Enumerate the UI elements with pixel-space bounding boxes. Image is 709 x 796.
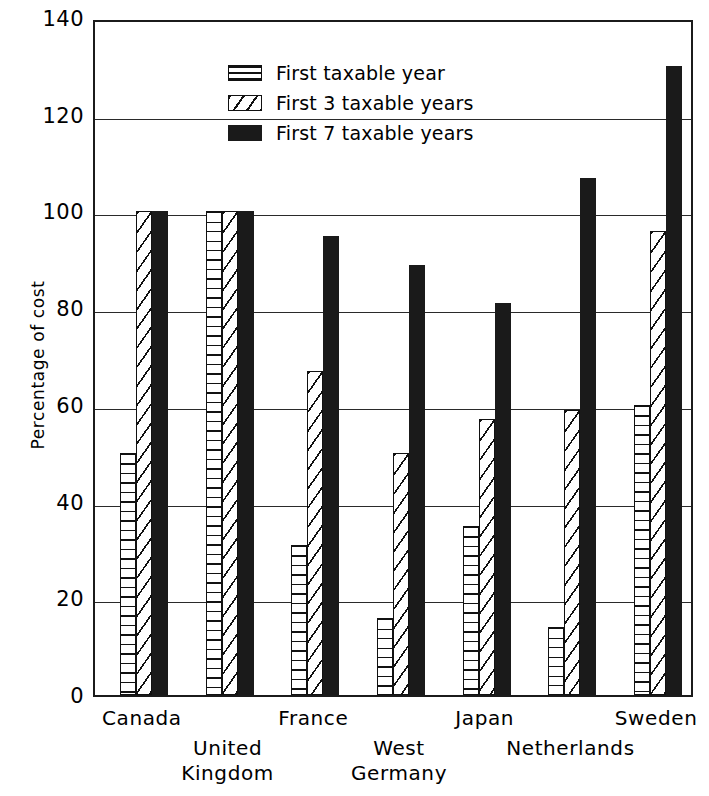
- bar-netherlands-series-3: [580, 178, 596, 695]
- x-label-japan: Japan: [455, 706, 514, 731]
- x-label-canada: Canada: [102, 706, 182, 731]
- bar-sweden-series-3: [666, 66, 682, 695]
- bar-sweden-series-1: [634, 405, 650, 695]
- y-tick-0: 0: [30, 686, 84, 707]
- y-tick-40: 40: [30, 493, 84, 514]
- bar-japan-series-1: [463, 526, 479, 695]
- bar-united-kingdom-series-1: [206, 211, 222, 695]
- y-tick-120: 120: [30, 106, 84, 127]
- bar-west-germany-series-2: [393, 453, 409, 695]
- bar-netherlands-series-1: [548, 627, 564, 695]
- bar-west-germany-series-1: [377, 618, 393, 695]
- legend-swatch-icon-2: [228, 95, 262, 111]
- x-label-netherlands: Netherlands: [506, 736, 635, 761]
- bar-japan-series-3: [495, 303, 511, 695]
- legend-label-3: First 7 taxable years: [276, 122, 474, 144]
- bar-japan-series-2: [479, 419, 495, 695]
- bar-sweden-series-2: [650, 231, 666, 695]
- bar-france-series-3: [323, 236, 339, 695]
- y-tick-80: 80: [30, 299, 84, 320]
- bar-united-kingdom-series-3: [238, 211, 254, 695]
- x-label-united-kingdom: UnitedKingdom: [181, 736, 274, 786]
- y-tick-60: 60: [30, 396, 84, 417]
- legend-item-1: First taxable year: [228, 58, 474, 88]
- legend-swatch-icon-3: [228, 125, 262, 141]
- bar-united-kingdom-series-2: [222, 211, 238, 695]
- bar-west-germany-series-3: [409, 265, 425, 695]
- legend-swatch-icon-1: [228, 65, 262, 81]
- x-label-france: France: [278, 706, 348, 731]
- bar-canada-series-3: [152, 211, 168, 695]
- x-label-sweden: Sweden: [615, 706, 698, 731]
- bar-netherlands-series-2: [564, 410, 580, 695]
- gridline-80: [95, 312, 691, 313]
- gridline-60: [95, 409, 691, 410]
- legend-label-1: First taxable year: [276, 62, 445, 84]
- legend-label-2: First 3 taxable years: [276, 92, 474, 114]
- gridline-100: [95, 215, 691, 216]
- y-tick-20: 20: [30, 589, 84, 610]
- bar-canada-series-1: [120, 453, 136, 695]
- bar-france-series-1: [291, 545, 307, 695]
- y-tick-100: 100: [30, 202, 84, 223]
- y-tick-140: 140: [30, 9, 84, 30]
- bar-france-series-2: [307, 371, 323, 695]
- y-axis-tick-labels: 140120100806040200: [30, 0, 84, 796]
- chart-legend: First taxable yearFirst 3 taxable yearsF…: [228, 58, 474, 148]
- legend-item-2: First 3 taxable years: [228, 88, 474, 118]
- x-label-west-germany: WestGermany: [351, 736, 447, 786]
- bar-canada-series-2: [136, 211, 152, 695]
- legend-item-3: First 7 taxable years: [228, 118, 474, 148]
- bar-chart: Percentage of cost 140120100806040200 Fi…: [0, 0, 709, 796]
